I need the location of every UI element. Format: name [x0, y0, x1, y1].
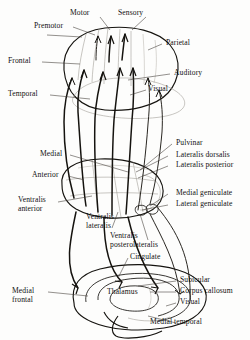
label-lateralis-posterior: Lateralis posterior — [176, 161, 233, 170]
leader-ventralis-postlat — [140, 214, 148, 240]
label-medial-geniculate: Medial geniculate — [176, 189, 232, 198]
leader-temporal — [50, 95, 90, 99]
label-ventralis-lateralis-line2: lateralis — [86, 222, 111, 230]
thalamocortical-fibers — [64, 34, 162, 215]
label-motor: Motor — [70, 9, 89, 18]
leader-medial-frontal — [48, 292, 88, 296]
label-visual-medial: Visual — [180, 298, 200, 307]
label-visual-cortex: Visual — [148, 85, 168, 94]
label-cingulate: Cingulate — [130, 253, 160, 262]
leader-ventralis-anterior — [58, 196, 92, 202]
label-ventralis-anterior-line2: anterior — [18, 205, 42, 213]
label-lateralis-dorsalis: Lateralis dorsalis — [176, 151, 230, 160]
leader-visual-bottom — [166, 303, 176, 306]
leader-frontal-upper — [47, 35, 82, 37]
label-parietal: Parietal — [166, 39, 190, 48]
label-frontal: Frontal — [8, 57, 31, 66]
leader-cingulate — [118, 258, 128, 278]
leader-medial — [70, 155, 128, 172]
leader-sensory — [132, 17, 146, 30]
label-premotor: Premotor — [34, 22, 63, 31]
label-medial-temporal: Medial temporal — [150, 318, 202, 327]
thalamocortical-diagram: Motor Sensory Premotor Frontal Parietal … — [0, 0, 250, 340]
label-thalamus: Thalamus — [107, 288, 138, 297]
label-medial: Medial — [40, 150, 62, 159]
label-anterior: Anterior — [32, 171, 59, 180]
label-temporal: Temporal — [8, 90, 38, 99]
leader-subicular — [138, 281, 176, 286]
label-sensory: Sensory — [118, 9, 143, 18]
label-corpus-callosum: Corpus callosum — [180, 287, 233, 296]
label-subicular: Subicular — [180, 276, 210, 285]
label-pulvinar: Pulvinar — [176, 139, 203, 148]
label-medial-frontal-line2: frontal — [12, 296, 33, 304]
leader-parietal — [148, 44, 162, 50]
label-auditory: Auditory — [174, 69, 202, 78]
leader-frontal — [42, 62, 80, 64]
label-lateral-geniculate: Lateral geniculate — [176, 200, 232, 209]
label-ventralis-posterolateralis-line2: posterolateralis — [110, 241, 158, 249]
leader-visual-top — [130, 90, 146, 95]
leader-lat-dorsalis — [136, 156, 168, 172]
